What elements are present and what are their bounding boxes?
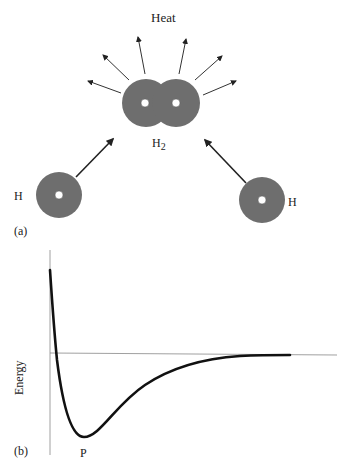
heat-arrow-3 — [138, 37, 145, 74]
heat-label: Heat — [151, 11, 176, 24]
heat-arrow-4 — [179, 39, 186, 74]
h2-label: H2 — [152, 137, 166, 152]
nucleus-icon — [141, 99, 149, 107]
atom-left-label: H — [14, 190, 23, 202]
panel-b-label: (b) — [14, 445, 28, 457]
hydrogen-atom-left — [36, 172, 82, 218]
diagram-canvas — [0, 0, 339, 466]
y-axis-label: Energy — [13, 361, 25, 395]
x-axis — [50, 353, 337, 355]
panel-a-label: (a) — [14, 225, 27, 237]
nucleus-icon — [55, 191, 63, 199]
heat-arrow-1 — [88, 81, 121, 93]
h2-label-text: H — [152, 136, 161, 150]
heat-arrow-2 — [103, 55, 129, 80]
hydrogen-atom-right — [239, 177, 285, 223]
minimum-label: P — [80, 447, 87, 459]
nucleus-icon — [172, 99, 180, 107]
approach-arrow-left — [76, 139, 113, 177]
heat-arrow-6 — [203, 81, 236, 95]
heat-arrow-5 — [195, 56, 222, 80]
atom-right-label: H — [288, 196, 297, 208]
h2-subscript: 2 — [161, 141, 166, 152]
nucleus-icon — [258, 196, 266, 204]
h2-molecule — [122, 79, 200, 127]
approach-arrow-right — [205, 140, 246, 183]
